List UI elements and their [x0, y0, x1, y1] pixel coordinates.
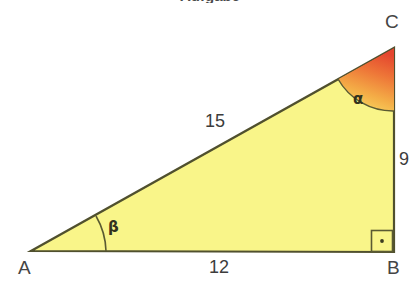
- angle-label-alpha: α: [353, 92, 363, 107]
- vertex-label-c: C: [385, 12, 399, 31]
- angle-label-beta: β: [108, 220, 119, 235]
- vertex-label-b: B: [387, 258, 400, 277]
- right-angle-dot-icon: [380, 239, 384, 243]
- triangle-svg-canvas: [0, 0, 420, 290]
- geometry-figure: Aufgabe A B C 15 12 9: [0, 0, 420, 290]
- side-label-vertical: 9: [399, 150, 409, 168]
- side-label-base: 12: [209, 258, 229, 276]
- vertex-label-a: A: [18, 258, 31, 277]
- side-label-hypotenuse: 15: [205, 112, 225, 130]
